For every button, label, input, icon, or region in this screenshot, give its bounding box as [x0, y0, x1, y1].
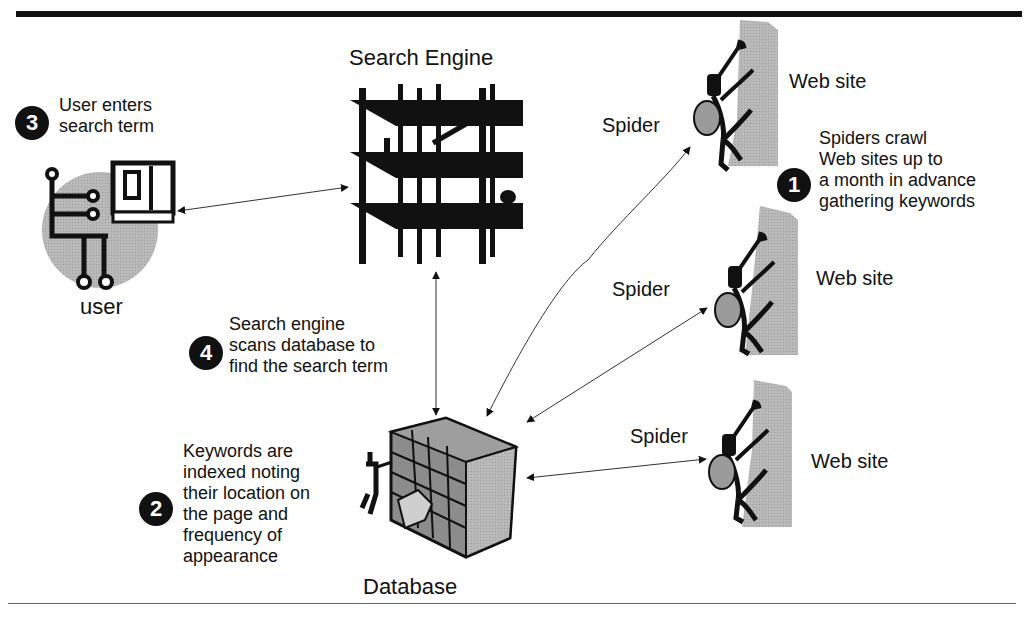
- website-label-2: Web site: [816, 267, 893, 289]
- search-engine-label: Search Engine: [349, 46, 493, 70]
- website-label-1: Web site: [789, 70, 866, 92]
- website-label-3: Web site: [811, 450, 888, 472]
- connector-database-spider-3: [527, 459, 706, 478]
- building-under-construction-icon: [350, 84, 523, 264]
- database-label: Database: [363, 575, 457, 599]
- step-4-badge: 4: [189, 336, 223, 370]
- step-3-badge: 3: [15, 106, 49, 140]
- step-1-text: Spiders crawl Web sites up to a month in…: [819, 128, 976, 212]
- user-label: user: [80, 295, 123, 319]
- diagram-canvas: [0, 0, 1032, 619]
- step-1-badge: 1: [777, 168, 811, 202]
- step-3-text: User enters search term: [59, 95, 154, 137]
- filing-cabinet-icon: [362, 418, 516, 557]
- step-4-text: Search engine scans database to find the…: [229, 314, 388, 377]
- connector-database-spider-2: [527, 308, 707, 422]
- connector-user-search-engine: [178, 187, 348, 211]
- step-2-badge: 2: [139, 492, 173, 526]
- spider-label-2: Spider: [612, 278, 670, 300]
- spider-label-3: Spider: [630, 425, 688, 447]
- step-2-text: Keywords are indexed noting their locati…: [183, 441, 310, 567]
- spider-label-1: Spider: [602, 114, 660, 136]
- computer-user-icon: [42, 163, 173, 288]
